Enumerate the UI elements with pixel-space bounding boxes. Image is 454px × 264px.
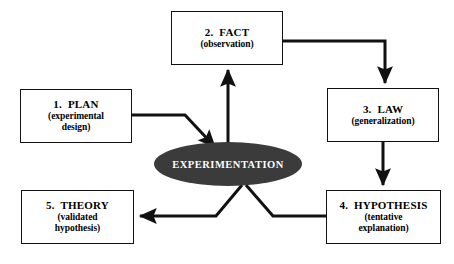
node-experimentation-hub[interactable]: EXPERIMENTATION (154, 142, 302, 186)
node-hypothesis[interactable]: 4. HYPOTHESIS (tentative explanation) (326, 190, 441, 244)
node-plan[interactable]: 1. PLAN (experimental design) (20, 89, 132, 143)
connector-experimentation-to-theory (140, 185, 242, 216)
node-plan-subtitle-line1: (experimental (48, 111, 104, 122)
node-plan-subtitle-line2: design) (62, 122, 91, 133)
node-experimentation-label: EXPERIMENTATION (172, 159, 284, 170)
node-theory-title: 5. THEORY (46, 199, 109, 212)
connector-plan-to-experimentation (132, 115, 215, 147)
node-theory-subtitle-line2: hypothesis) (55, 223, 100, 234)
node-law-subtitle-line1: (generalization) (351, 116, 414, 127)
node-fact[interactable]: 2. FACT (observation) (171, 11, 283, 65)
node-fact-title: 2. FACT (205, 26, 249, 39)
scientific-method-diagram: 1. PLAN (experimental design) 2. FACT (o… (0, 0, 454, 264)
node-hypothesis-subtitle-line1: (tentative (364, 212, 402, 223)
node-law-title: 3. LAW (363, 103, 403, 116)
node-law[interactable]: 3. LAW (generalization) (327, 88, 439, 142)
connector-fact-to-law (283, 41, 385, 83)
node-theory-subtitle-line1: (validated (57, 212, 97, 223)
node-fact-subtitle-line1: (observation) (200, 39, 253, 50)
node-hypothesis-subtitle-line2: explanation) (358, 223, 408, 234)
node-plan-title: 1. PLAN (53, 98, 98, 111)
node-theory[interactable]: 5. THEORY (validated hypothesis) (21, 190, 134, 244)
node-hypothesis-title: 4. HYPOTHESIS (339, 199, 427, 212)
connector-hypothesis-to-experimentation (246, 185, 326, 216)
